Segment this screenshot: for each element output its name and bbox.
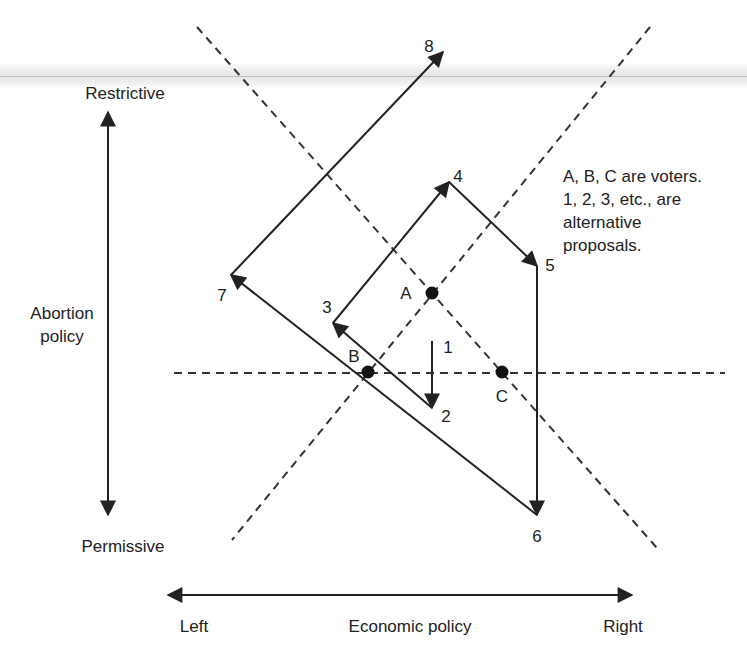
proposal-label-3: 3 [322, 298, 331, 318]
axis-label-restrictive: Restrictive [85, 84, 164, 104]
axis-label-right: Right [603, 617, 643, 637]
legend-note-line-4: proposals. [563, 234, 743, 257]
proposal-label-7: 7 [217, 286, 226, 306]
arrow-4-to-5 [449, 182, 537, 266]
arrow-6-to-7 [231, 275, 537, 515]
proposal-label-5: 5 [545, 256, 554, 276]
arrow-7-to-8 [231, 52, 443, 275]
voter-label-c: C [496, 387, 508, 407]
legend-note-line-2: 1, 2, 3, etc., are [563, 188, 743, 211]
axis-label-abortion: Abortion [30, 304, 93, 324]
legend-note-line-1: A, B, C are voters. [563, 165, 743, 188]
proposal-label-1: 1 [443, 338, 452, 358]
axis-label-economic-policy: Economic policy [349, 617, 472, 637]
legend-note-line-3: alternative [563, 211, 743, 234]
dashed-line-a-c [197, 27, 657, 548]
axis-label-left: Left [180, 617, 208, 637]
proposal-label-4: 4 [453, 167, 462, 187]
voting-diagram: Restrictive Abortion policy Permissive L… [0, 0, 747, 660]
proposal-label-6: 6 [532, 527, 541, 547]
axis-label-policy: policy [40, 327, 83, 347]
voter-a-dot [426, 287, 439, 300]
legend-note: A, B, C are voters. 1, 2, 3, etc., are a… [563, 165, 743, 257]
voter-c-dot [496, 366, 509, 379]
proposal-label-8: 8 [424, 37, 433, 57]
proposal-label-2: 2 [441, 407, 450, 427]
arrow-3-to-4 [333, 182, 449, 323]
voter-label-b: B [348, 347, 359, 367]
axis-label-permissive: Permissive [81, 537, 164, 557]
voter-label-a: A [400, 284, 411, 304]
dashed-line-a-b [232, 27, 650, 540]
voter-b-dot [362, 366, 375, 379]
